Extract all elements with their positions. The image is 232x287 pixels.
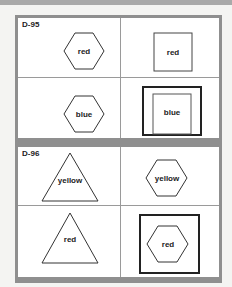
- hexagon-shape: red: [64, 33, 104, 69]
- svg-text:yellow: yellow: [58, 176, 83, 185]
- svg-text:red: red: [167, 48, 180, 57]
- panel-d96-shapes: yellow yellow red red: [18, 147, 219, 277]
- triangle-shape: yellow: [42, 153, 98, 201]
- top-band: [0, 0, 232, 5]
- svg-text:red: red: [78, 47, 91, 56]
- panel-d96: D-96 yellow yellow red red: [18, 147, 219, 277]
- svg-text:blue: blue: [76, 110, 93, 119]
- svg-text:red: red: [162, 240, 175, 249]
- panel-d95-shapes: red red blue blue: [18, 18, 219, 138]
- triangle-shape: red: [42, 213, 98, 263]
- square-shape: red: [154, 33, 192, 71]
- diagram-frame: D-95 red red blue blue: [15, 15, 222, 283]
- panel-d95: D-95 red red blue blue: [18, 18, 219, 138]
- framed-hexagon-shape: red: [140, 215, 199, 273]
- svg-text:red: red: [64, 235, 77, 244]
- svg-text:yellow: yellow: [155, 174, 180, 183]
- svg-text:blue: blue: [164, 108, 181, 117]
- framed-square-shape: blue: [143, 87, 201, 135]
- hexagon-shape: blue: [64, 96, 104, 132]
- hexagon-shape: yellow: [146, 160, 187, 196]
